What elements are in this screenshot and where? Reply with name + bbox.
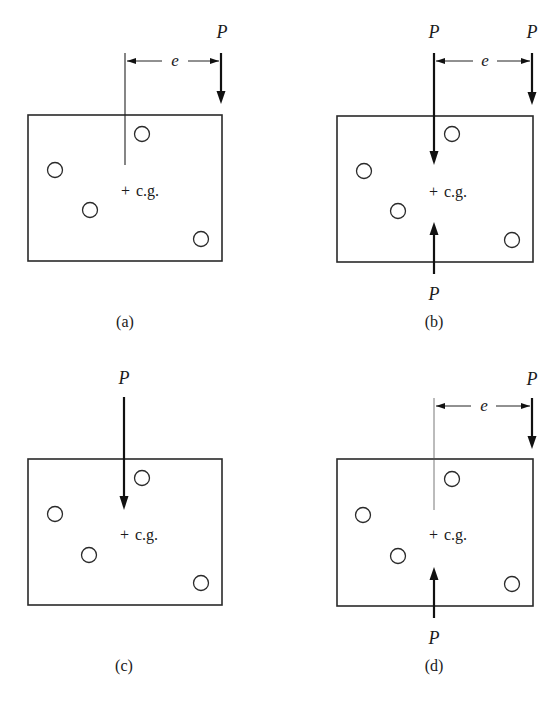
bolt-hole-icon	[83, 203, 98, 218]
eccentricity-label: e	[481, 51, 489, 70]
bolt-hole-icon	[135, 471, 150, 486]
load-label: P	[428, 284, 440, 304]
eccentricity-dimension: e	[436, 396, 530, 415]
bolt-hole-icon	[505, 233, 520, 248]
bolt-hole-icon	[505, 577, 520, 592]
centroid-label: c.g.	[136, 182, 159, 200]
eccentric-load-figure: e P + c.g. (a) e P	[0, 0, 560, 703]
centroid-marker: +	[429, 183, 438, 200]
load-label: P	[118, 368, 130, 388]
arrow-up-icon	[430, 567, 439, 580]
bolt-hole-icon	[445, 472, 460, 487]
centroid-label: c.g.	[444, 183, 467, 201]
arrow-down-icon	[528, 92, 537, 105]
centroid-load-up-arrow	[430, 567, 439, 618]
dimension-arrowhead-icon	[436, 403, 445, 409]
panel-caption: (b)	[425, 313, 444, 331]
bolt-hole-icon	[82, 548, 97, 563]
bolt-hole-icon	[194, 576, 209, 591]
eccentricity-dimension: e	[436, 51, 530, 70]
centroid-marker: +	[429, 526, 438, 543]
bolt-hole-icon	[391, 549, 406, 564]
load-label: P	[216, 22, 228, 42]
arrow-up-icon	[430, 222, 439, 235]
load-label: P	[526, 369, 538, 389]
dimension-arrowhead-icon	[521, 403, 530, 409]
centroid-label: c.g.	[444, 526, 467, 544]
bolt-hole-icon	[391, 204, 406, 219]
centroid-load-up-arrow	[430, 222, 439, 274]
panel-caption: (c)	[115, 657, 133, 675]
arrow-down-icon	[430, 151, 439, 165]
bolt-hole-icon	[356, 508, 371, 523]
centroid-marker: +	[120, 526, 129, 543]
arrow-down-icon	[528, 436, 537, 449]
eccentricity-dimension: e	[127, 51, 219, 70]
panel-caption: (d)	[425, 657, 444, 675]
centroid-load-down-arrow	[430, 53, 439, 165]
dimension-arrowhead-icon	[436, 58, 445, 64]
centroid-marker: +	[121, 182, 130, 199]
load-label: P	[428, 628, 440, 648]
bolt-hole-icon	[194, 232, 209, 247]
panel-caption: (a)	[116, 313, 134, 331]
arrow-down-icon	[217, 91, 226, 104]
eccentricity-label: e	[171, 51, 179, 70]
bolt-hole-icon	[445, 127, 460, 142]
arrow-down-icon	[120, 496, 129, 510]
eccentricity-label: e	[480, 396, 488, 415]
centroid-label: c.g.	[135, 526, 158, 544]
bolt-hole-icon	[357, 164, 372, 179]
bolt-hole-icon	[48, 507, 63, 522]
load-label: P	[428, 22, 440, 42]
dimension-arrowhead-icon	[521, 58, 530, 64]
panel-a: e P + c.g. (a)	[28, 22, 228, 331]
panel-c: P + c.g. (c)	[28, 368, 222, 675]
bolt-hole-icon	[135, 127, 150, 142]
dimension-arrowhead-icon	[210, 58, 219, 64]
panel-d: e P P + c.g. (d)	[337, 369, 538, 675]
bolt-hole-icon	[48, 163, 63, 178]
dimension-arrowhead-icon	[127, 58, 136, 64]
centroid-load-down-arrow	[120, 397, 129, 510]
panel-b: e P P P + c.g. (b)	[337, 22, 538, 331]
load-label: P	[526, 22, 538, 42]
